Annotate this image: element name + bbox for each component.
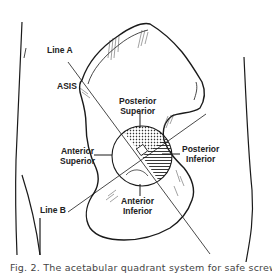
label-line-b: Line B	[40, 205, 66, 215]
label-anterior-inferior-line2: Inferior	[121, 206, 154, 216]
label-posterior-inferior-line2: Inferior	[182, 154, 219, 164]
label-anterior-superior: Anterior Superior	[60, 146, 95, 166]
label-anterior-inferior: Anterior Inferior	[121, 196, 154, 216]
figure-caption: Fig. 2. The acetabular quadrant system f…	[10, 262, 272, 273]
body-outline-left	[16, 22, 40, 255]
label-posterior-superior-line1: Posterior	[119, 96, 156, 106]
label-posterior-superior-line2: Superior	[119, 106, 156, 116]
label-line-a: Line A	[47, 45, 73, 55]
label-posterior-superior: Posterior Superior	[119, 96, 156, 116]
label-anterior-inferior-line1: Anterior	[121, 196, 154, 206]
acetabular-quadrant-diagram	[0, 0, 272, 274]
body-outline-right	[244, 57, 253, 262]
label-asis: ASIS	[57, 81, 77, 91]
label-posterior-inferior-line1: Posterior	[182, 144, 219, 154]
label-anterior-superior-line2: Superior	[60, 156, 95, 166]
label-posterior-inferior: Posterior Inferior	[182, 144, 219, 164]
label-anterior-superior-line1: Anterior	[60, 146, 95, 156]
